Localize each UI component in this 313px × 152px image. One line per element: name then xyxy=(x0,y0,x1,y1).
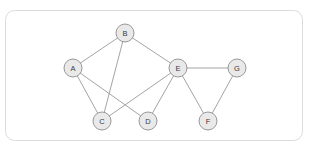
node-circle-C[interactable] xyxy=(93,112,111,130)
graph-node-E[interactable]: E xyxy=(169,59,187,77)
graph-node-D[interactable]: D xyxy=(139,112,157,130)
graph-node-C[interactable]: C xyxy=(93,112,111,130)
graph-node-B[interactable]: B xyxy=(116,24,134,42)
node-circle-F[interactable] xyxy=(199,112,217,130)
graph-node-F[interactable]: F xyxy=(199,112,217,130)
node-circle-B[interactable] xyxy=(116,24,134,42)
node-circle-E[interactable] xyxy=(169,59,187,77)
graph-node-A[interactable]: A xyxy=(64,59,82,77)
graph-panel: ABCDEFG xyxy=(0,0,313,152)
graph-node-G[interactable]: G xyxy=(228,59,246,77)
node-circle-A[interactable] xyxy=(64,59,82,77)
node-circle-G[interactable] xyxy=(228,59,246,77)
graph-canvas: ABCDEFG xyxy=(0,0,313,152)
node-circle-D[interactable] xyxy=(139,112,157,130)
